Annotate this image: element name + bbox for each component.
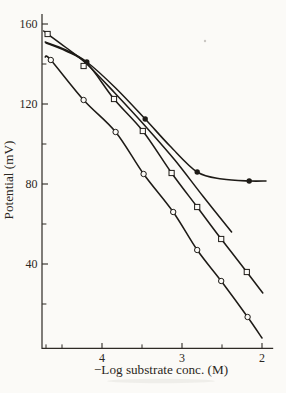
series-path-open-circles-steep-curve <box>45 56 262 338</box>
open-square-marker <box>244 269 249 274</box>
filled-circle-marker <box>143 116 148 121</box>
scan-smudge <box>107 379 215 383</box>
y-tick-label: 80 <box>26 177 38 191</box>
potentiometric-response-chart: 4321601208040−Log substrate conc. (M)Pot… <box>0 0 286 393</box>
open-circle-marker <box>113 129 118 134</box>
open-square-marker <box>195 204 200 209</box>
open-circle-marker <box>245 314 250 319</box>
filled-circle-marker <box>195 169 200 174</box>
y-axis-title: Potential (mV) <box>1 141 16 220</box>
x-axis-title: −Log substrate conc. (M) <box>94 362 228 377</box>
series-path-filled-circles-plateau-curve <box>45 42 266 181</box>
y-tick-label: 160 <box>20 17 38 31</box>
scan-speck <box>204 40 206 42</box>
open-circle-marker <box>171 209 176 214</box>
open-square-marker <box>140 128 145 133</box>
x-tick-label: 2 <box>259 351 265 365</box>
figure-panel: 4321601208040−Log substrate conc. (M)Pot… <box>0 0 286 393</box>
y-tick-label: 120 <box>20 97 38 111</box>
open-square-marker <box>219 236 224 241</box>
open-square-marker <box>169 170 174 175</box>
open-square-marker <box>81 63 86 68</box>
open-circle-marker <box>195 247 200 252</box>
series-path-open-squares-lower-curve <box>46 43 263 293</box>
open-circle-marker <box>48 57 53 62</box>
open-square-marker <box>111 96 116 101</box>
open-circle-marker <box>141 171 146 176</box>
y-tick-label: 40 <box>26 257 38 271</box>
open-square-marker <box>45 31 50 36</box>
series-path-open-squares-upper-curve <box>44 31 232 232</box>
open-circle-marker <box>219 278 224 283</box>
open-circle-marker <box>81 97 86 102</box>
filled-circle-marker <box>247 178 252 183</box>
